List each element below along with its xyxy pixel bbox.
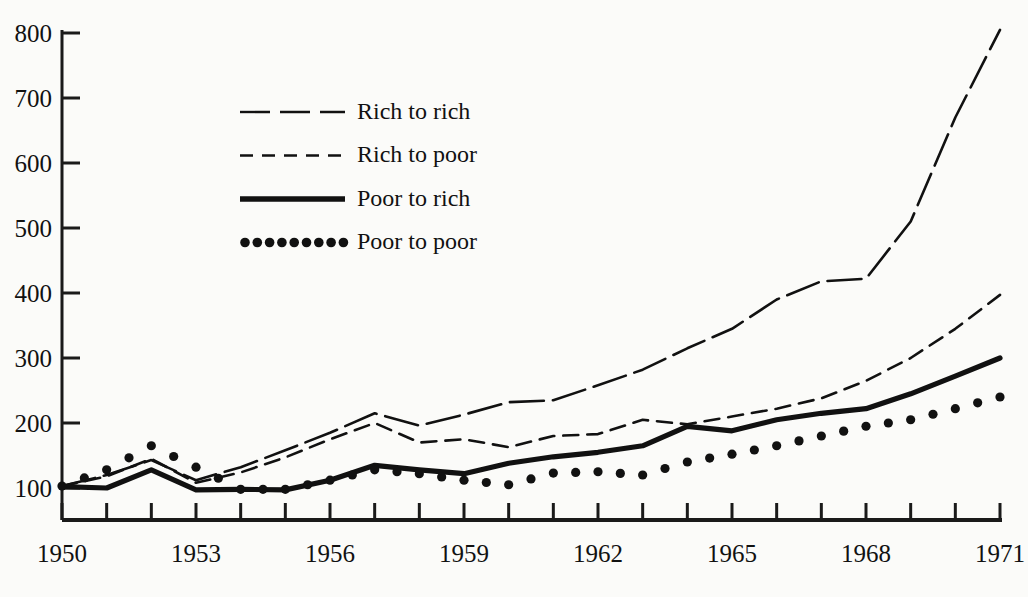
data-point-dot: [169, 452, 178, 461]
y-axis-ticks: [62, 33, 80, 488]
data-point-dot: [57, 481, 66, 490]
legend-dotted-swatch-dot: [252, 238, 262, 248]
data-point-dot: [214, 474, 223, 483]
data-point-dot: [660, 464, 669, 473]
data-point-dot: [951, 404, 960, 413]
data-point-dot: [861, 422, 870, 431]
legend-label: Rich to poor: [357, 141, 477, 167]
y-tick-label: 200: [15, 410, 53, 437]
x-tick-label: 1965: [707, 540, 757, 567]
chart-legend: Rich to richRich to poorPoor to richPoor…: [240, 98, 477, 255]
legend-dotted-swatch-dot: [302, 238, 312, 248]
legend-item-poor-to-rich[interactable]: Poor to rich: [240, 185, 470, 211]
y-tick-label: 400: [15, 280, 53, 307]
legend-item-rich-to-rich[interactable]: Rich to rich: [240, 98, 470, 124]
data-point-dot: [281, 485, 290, 494]
data-point-dot: [884, 418, 893, 427]
x-tick-label: 1971: [975, 540, 1025, 567]
data-point-dot: [750, 445, 759, 454]
data-point-dot: [325, 476, 334, 485]
data-point-dot: [258, 485, 267, 494]
legend-label: Rich to rich: [357, 98, 470, 124]
data-point-dot: [817, 431, 826, 440]
legend-dotted-swatch-dot: [326, 238, 336, 248]
data-point-dot: [638, 470, 647, 479]
legend-dotted-swatch-dot: [314, 238, 324, 248]
data-point-dot: [124, 453, 133, 462]
legend-dotted-swatch-dot: [289, 238, 299, 248]
x-tick-label: 1950: [37, 540, 87, 567]
legend-dotted-swatch-dot: [265, 238, 275, 248]
legend-item-rich-to-poor[interactable]: Rich to poor: [240, 141, 477, 167]
x-tick-label: 1956: [305, 540, 355, 567]
x-tick-label: 1959: [439, 540, 489, 567]
legend-dotted-swatch-dot: [240, 238, 250, 248]
y-axis-tick-labels: 100200300400500600700800: [15, 20, 53, 502]
data-point-dot: [526, 474, 535, 483]
series-line: [62, 358, 1000, 490]
series-layer: [57, 30, 1004, 494]
data-point-dot: [906, 415, 915, 424]
x-tick-label: 1962: [573, 540, 623, 567]
data-point-dot: [794, 436, 803, 445]
data-point-dot: [593, 467, 602, 476]
x-tick-label: 1968: [841, 540, 891, 567]
data-point-dot: [415, 469, 424, 478]
x-axis-ticks: [62, 503, 1000, 520]
series-line: [62, 30, 1000, 486]
y-tick-label: 100: [15, 475, 53, 502]
y-tick-label: 800: [15, 20, 53, 47]
data-point-dot: [459, 476, 468, 485]
series-rich-to-poor: [62, 295, 1000, 486]
data-point-dot: [303, 480, 312, 489]
data-point-dot: [482, 478, 491, 487]
x-axis-tick-labels: 19501953195619591962196519681971: [37, 540, 1025, 567]
y-tick-label: 300: [15, 345, 53, 372]
series-poor-to-rich: [62, 358, 1000, 490]
data-point-dot: [928, 410, 937, 419]
series-line: [62, 295, 1000, 486]
data-point-dot: [973, 398, 982, 407]
legend-item-poor-to-poor[interactable]: Poor to poor: [240, 228, 477, 254]
data-point-dot: [102, 465, 111, 474]
data-point-dot: [683, 457, 692, 466]
data-point-dot: [191, 463, 200, 472]
data-point-dot: [705, 454, 714, 463]
data-point-dot: [392, 467, 401, 476]
data-point-dot: [839, 427, 848, 436]
data-point-dot: [504, 480, 513, 489]
series-rich-to-rich: [62, 30, 1000, 486]
legend-dotted-swatch-dot: [339, 238, 349, 248]
x-tick-label: 1953: [171, 540, 221, 567]
y-tick-label: 500: [15, 215, 53, 242]
y-tick-label: 600: [15, 150, 53, 177]
legend-dotted-swatch-dot: [277, 238, 287, 248]
legend-label: Poor to poor: [357, 228, 477, 254]
data-point-dot: [772, 441, 781, 450]
data-point-dot: [80, 473, 89, 482]
data-point-dot: [549, 468, 558, 477]
chart-figure: 100200300400500600700800 195019531956195…: [0, 0, 1028, 597]
data-point-dot: [236, 485, 245, 494]
data-point-dot: [370, 465, 379, 474]
data-point-dot: [571, 468, 580, 477]
data-point-dot: [727, 450, 736, 459]
data-point-dot: [437, 472, 446, 481]
line-chart-canvas: 100200300400500600700800 195019531956195…: [0, 0, 1028, 597]
data-point-dot: [147, 441, 156, 450]
data-point-dot: [995, 392, 1004, 401]
legend-label: Poor to rich: [357, 185, 470, 211]
data-point-dot: [616, 469, 625, 478]
data-point-dot: [348, 470, 357, 479]
y-tick-label: 700: [15, 85, 53, 112]
